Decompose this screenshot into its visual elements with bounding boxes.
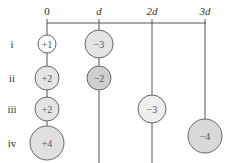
charge-diagram: 0 d 2d 3d i ii iii iv +1 −3 +2 [0,0,226,163]
column-label-0: 0 [44,5,50,17]
svg-text:−2: −2 [94,73,105,84]
charge-iv-0: +4 [30,126,64,160]
charge-ii-d: −2 [87,66,111,90]
row-label-ii: ii [9,72,15,84]
svg-text:+2: +2 [42,73,53,84]
row-label-i: i [10,38,13,50]
column-labels: 0 d 2d 3d [44,5,211,17]
svg-text:+2: +2 [42,104,53,115]
charge-ii-0: +2 [35,66,59,90]
svg-text:+1: +1 [42,39,53,50]
row-labels: i ii iii iv [7,38,16,149]
grid-lines [47,19,206,163]
svg-text:+4: +4 [42,138,53,149]
column-label-3d: 3d [199,5,212,17]
charge-iii-0: +2 [35,97,59,121]
row-label-iv: iv [8,137,17,149]
charges: +1 −3 +2 −2 +2 −3 +4 −4 [30,30,222,160]
charge-i-0: +1 [38,35,56,53]
charge-iv-3d: −4 [188,119,222,153]
charge-iii-2d: −3 [138,95,166,123]
column-label-2d: 2d [147,5,159,17]
svg-text:−3: −3 [94,39,105,50]
svg-text:−4: −4 [200,131,211,142]
charge-i-d: −3 [85,30,113,58]
svg-text:−3: −3 [147,104,158,115]
row-label-iii: iii [7,103,16,115]
column-label-d: d [96,5,102,17]
